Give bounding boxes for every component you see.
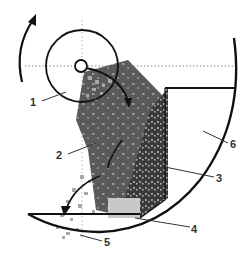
label-5: 5 xyxy=(104,236,110,248)
label-4: 4 xyxy=(191,223,198,235)
label-3: 3 xyxy=(216,172,222,184)
drum-diagram: 1 2 3 4 5 6 xyxy=(0,0,250,258)
rotor-hub xyxy=(75,60,87,72)
label-6: 6 xyxy=(230,138,236,150)
label-2: 2 xyxy=(56,149,62,161)
rotation-arrow-icon xyxy=(20,20,33,82)
label-1: 1 xyxy=(30,96,36,108)
leader-5 xyxy=(80,235,102,241)
